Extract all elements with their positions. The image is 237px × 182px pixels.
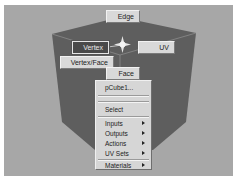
menu-item-uv-sets[interactable]: UV Sets	[96, 149, 151, 158]
marking-menu-face[interactable]: Face	[106, 67, 140, 80]
menu-item-select[interactable]: Select	[96, 105, 151, 114]
context-menu: pCube1... Select Inputs Outputs Actions …	[95, 80, 152, 170]
menu-item-label: UV Sets	[105, 150, 129, 157]
submenu-arrow-icon	[142, 131, 145, 135]
submenu-arrow-icon	[142, 151, 145, 155]
marking-menu-edge[interactable]: Edge	[106, 10, 140, 23]
star-icon	[114, 36, 131, 53]
menu-item-label: Actions	[105, 140, 126, 147]
menu-item-label: Materials	[105, 162, 131, 169]
menu-item-label: Outputs	[105, 130, 128, 137]
menu-item-actions[interactable]: Actions	[96, 139, 151, 148]
menu-item-outputs[interactable]: Outputs	[96, 129, 151, 138]
menu-item-materials[interactable]: Materials	[96, 161, 151, 170]
menu-item-label: Inputs	[105, 120, 123, 127]
menu-separator	[98, 101, 149, 103]
menu-separator	[98, 116, 149, 118]
menu-item-label: Select	[105, 106, 123, 113]
menu-item-label: pCube1...	[105, 84, 133, 91]
submenu-arrow-icon	[142, 141, 145, 145]
submenu-arrow-icon	[142, 163, 145, 167]
marking-menu-uv[interactable]: UV	[138, 41, 175, 54]
submenu-arrow-icon	[142, 121, 145, 125]
menu-item-inputs[interactable]: Inputs	[96, 119, 151, 128]
marking-menu-vertex[interactable]: Vertex	[72, 41, 109, 54]
menu-separator	[98, 95, 149, 97]
menu-item-pcube1[interactable]: pCube1...	[96, 83, 151, 92]
